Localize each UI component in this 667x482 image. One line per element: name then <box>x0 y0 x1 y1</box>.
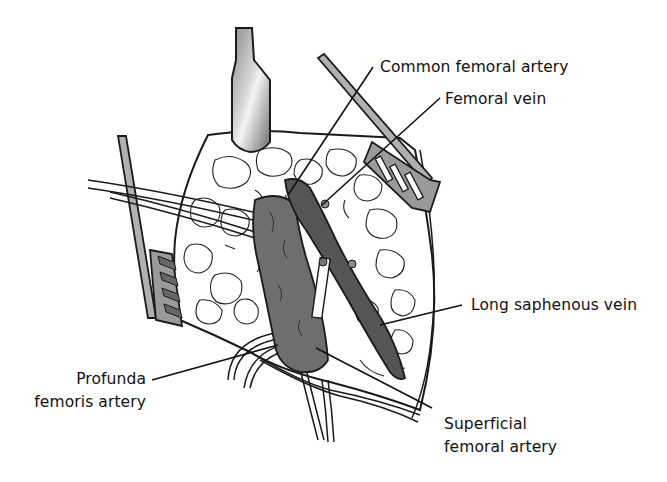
label-profunda-line1: Profunda <box>76 370 146 389</box>
label-femoral-vein: Femoral vein <box>445 90 546 109</box>
label-profunda-line2: femoris artery <box>34 393 146 412</box>
left-retractor <box>118 136 182 326</box>
label-long-saphenous-vein: Long saphenous vein <box>471 296 637 315</box>
label-superficial-line2: femoral artery <box>444 438 557 457</box>
top-retractor <box>232 28 270 152</box>
label-superficial-line1: Superficial <box>444 415 527 434</box>
label-common-femoral-artery: Common femoral artery <box>380 58 569 77</box>
